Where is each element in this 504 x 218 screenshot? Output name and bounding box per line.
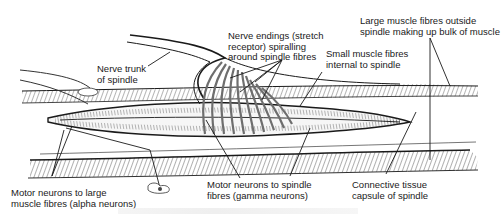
label-large-muscle-fibres: Large muscle fibres outside spindle maki… — [360, 16, 500, 37]
label-nerve-trunk: Nerve trunk of spindle — [97, 64, 146, 85]
spindle-capsule — [48, 103, 410, 137]
label-connective-tissue-capsule: Connective tissue capsule of spindle — [352, 180, 428, 201]
faded-caption — [118, 208, 358, 214]
label-alpha-motor-neurons: Motor neurons to large muscle fibres (al… — [11, 188, 136, 209]
label-small-muscle-fibres: Small muscle fibres internal to spindle — [326, 49, 408, 70]
lower-muscle-band — [28, 142, 478, 178]
motor-endplate — [148, 183, 169, 193]
label-nerve-endings: Nerve endings (stretch receptor) spirall… — [228, 31, 324, 63]
muscle-spindle-diagram: Nerve trunk of spindle Nerve endings (st… — [0, 0, 504, 218]
label-gamma-motor-neurons: Motor neurons to spindle fibres (gamma n… — [207, 180, 312, 201]
